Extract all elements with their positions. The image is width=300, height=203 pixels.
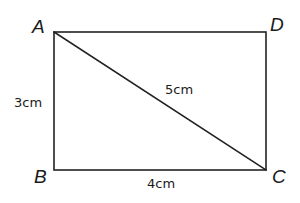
diagonal-ac: [54, 32, 266, 170]
vertex-label-a: A: [31, 16, 45, 37]
measurement-ac: 5cm: [165, 82, 193, 97]
vertex-label-b: B: [34, 166, 47, 187]
measurement-bc: 4cm: [147, 176, 175, 191]
vertex-label-c: C: [272, 166, 286, 187]
vertex-label-d: D: [270, 14, 284, 35]
measurement-ab: 3cm: [14, 95, 42, 110]
rectangle-diagram: A D B C 3cm 5cm 4cm: [0, 0, 300, 203]
